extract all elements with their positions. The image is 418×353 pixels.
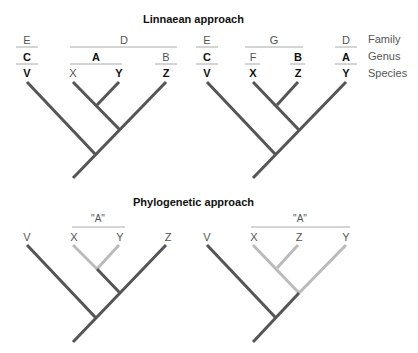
genus-label: F	[250, 51, 257, 63]
rank-species: Species	[368, 67, 407, 79]
phylo-tree-1	[27, 245, 166, 342]
tip-label: X	[70, 231, 77, 243]
species-label: Y	[342, 67, 349, 79]
tip-label: V	[23, 231, 30, 243]
linnaean-tree-1	[27, 82, 166, 178]
species-label: V	[203, 67, 210, 79]
species-label: Z	[163, 67, 170, 79]
genus-label: C	[203, 51, 211, 63]
species-label: Z	[295, 67, 302, 79]
tip-label: Z	[165, 231, 172, 243]
species-label: X	[69, 67, 76, 79]
family-label: E	[23, 34, 30, 46]
family-label: D	[342, 34, 350, 46]
tip-label: Z	[296, 231, 303, 243]
tip-label: Y	[342, 231, 349, 243]
genus-label: B	[294, 51, 302, 63]
genus-label: A	[342, 51, 350, 63]
group-label: "A"	[91, 213, 105, 224]
genus-label: C	[23, 51, 31, 63]
species-label: V	[23, 67, 30, 79]
tip-label: V	[203, 231, 210, 243]
tip-label: Y	[116, 231, 123, 243]
family-label: E	[203, 34, 210, 46]
phylogenetic-title: Phylogenetic approach	[133, 196, 254, 208]
tip-label: X	[250, 231, 257, 243]
rank-genus: Genus	[368, 50, 400, 62]
family-label: D	[120, 34, 128, 46]
linnaean-title: Linnaean approach	[143, 13, 244, 25]
group-label: "A"	[293, 213, 307, 224]
species-label: X	[249, 67, 256, 79]
genus-label: B	[162, 51, 169, 63]
phylo-tree-2	[207, 245, 346, 342]
species-label: Y	[115, 67, 122, 79]
rank-family: Family	[368, 33, 400, 45]
family-label: G	[270, 34, 279, 46]
genus-label: A	[92, 51, 100, 63]
linnaean-tree-2	[207, 82, 346, 178]
